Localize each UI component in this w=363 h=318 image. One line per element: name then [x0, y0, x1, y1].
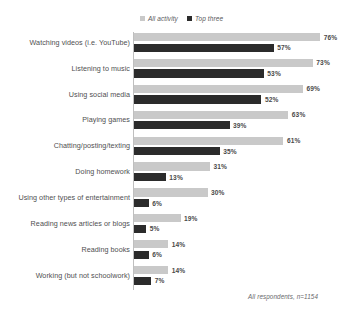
bar-fill — [134, 199, 149, 207]
bar-row: Listening to music73%53% — [0, 56, 363, 82]
category-label: Using social media — [2, 82, 130, 108]
bar-row: Reading books14%6% — [0, 237, 363, 263]
bar-row: Doing homework31%13% — [0, 159, 363, 185]
bar-fill — [134, 33, 320, 41]
bar-top-three: 7% — [134, 277, 164, 285]
legend-label-all-activity: All activity — [148, 15, 178, 22]
bar-fill — [134, 188, 208, 196]
bar-all-activity: 30% — [134, 188, 225, 196]
bar-fill — [134, 111, 288, 119]
bar-value-label: 57% — [277, 44, 291, 51]
bar-value-label: 61% — [287, 137, 301, 144]
bar-value-label: 14% — [172, 241, 186, 248]
category-label: Reading books — [2, 237, 130, 263]
category-label: Doing homework — [2, 159, 130, 185]
bar-fill — [134, 69, 264, 77]
bar-row: Working (but not schoolwork)14%7% — [0, 263, 363, 289]
bar-group: 30%6% — [134, 185, 363, 211]
bar-top-three: 35% — [134, 147, 237, 155]
bar-value-label: 76% — [324, 34, 338, 41]
bar-row: Reading news articles or blogs19%5% — [0, 211, 363, 237]
bar-value-label: 6% — [152, 200, 162, 207]
bar-group: 14%6% — [134, 237, 363, 263]
bar-all-activity: 31% — [134, 162, 227, 170]
square-light-icon — [140, 16, 145, 21]
chart-legend: All activity Top three — [0, 13, 363, 23]
bar-value-label: 73% — [316, 59, 330, 66]
bar-all-activity: 19% — [134, 214, 198, 222]
category-label: Working (but not schoolwork) — [2, 263, 130, 289]
category-label: Chatting/posting/texting — [2, 134, 130, 160]
bar-value-label: 39% — [233, 122, 247, 129]
bar-value-label: 35% — [223, 148, 237, 155]
bar-fill — [134, 44, 274, 52]
bar-fill — [134, 173, 166, 181]
bar-rows: Watching videos (i.e. YouTube)76%57%List… — [0, 30, 363, 289]
bar-value-label: 53% — [267, 70, 281, 77]
bar-top-three: 6% — [134, 251, 162, 259]
bar-group: 73%53% — [134, 56, 363, 82]
bar-value-label: 7% — [155, 277, 165, 284]
bar-value-label: 19% — [184, 215, 198, 222]
bar-group: 69%52% — [134, 82, 363, 108]
bar-fill — [134, 121, 230, 129]
bar-row: Playing games63%39% — [0, 108, 363, 134]
bar-top-three: 13% — [134, 173, 183, 181]
bar-top-three: 6% — [134, 199, 162, 207]
bar-top-three: 5% — [134, 225, 159, 233]
bar-value-label: 5% — [150, 225, 160, 232]
bar-group: 31%13% — [134, 159, 363, 185]
bar-all-activity: 73% — [134, 59, 330, 67]
bar-fill — [134, 240, 168, 248]
bar-all-activity: 14% — [134, 266, 185, 274]
bar-fill — [134, 162, 210, 170]
bar-all-activity: 69% — [134, 85, 320, 93]
bar-top-three: 57% — [134, 44, 291, 52]
plot-area: Watching videos (i.e. YouTube)76%57%List… — [0, 30, 363, 292]
bar-group: 63%39% — [134, 108, 363, 134]
bar-chart: All activity Top three Watching videos (… — [0, 0, 363, 318]
category-label: Using other types of entertainment — [2, 185, 130, 211]
bar-group: 19%5% — [134, 211, 363, 237]
category-label: Reading news articles or blogs — [2, 211, 130, 237]
bar-row: Chatting/posting/texting61%35% — [0, 134, 363, 160]
bar-top-three: 39% — [134, 121, 247, 129]
bar-row: Using other types of entertainment30%6% — [0, 185, 363, 211]
bar-fill — [134, 251, 149, 259]
bar-value-label: 31% — [213, 163, 227, 170]
bar-group: 61%35% — [134, 134, 363, 160]
bar-fill — [134, 95, 261, 103]
bar-all-activity: 76% — [134, 33, 337, 41]
bar-fill — [134, 85, 303, 93]
bar-all-activity: 61% — [134, 137, 300, 145]
bar-row: Using social media69%52% — [0, 82, 363, 108]
bar-value-label: 30% — [211, 189, 225, 196]
bar-top-three: 52% — [134, 95, 278, 103]
category-label: Watching videos (i.e. YouTube) — [2, 30, 130, 56]
bar-fill — [134, 277, 151, 285]
bar-group: 14%7% — [134, 263, 363, 289]
bar-value-label: 13% — [169, 174, 183, 181]
bar-fill — [134, 147, 220, 155]
category-label: Playing games — [2, 108, 130, 134]
bar-fill — [134, 59, 313, 67]
bar-value-label: 63% — [292, 111, 306, 118]
legend-item-top-three: Top three — [187, 15, 223, 22]
chart-footnote: All respondents, n=1154 — [248, 293, 318, 300]
bar-all-activity: 63% — [134, 111, 305, 119]
legend-label-top-three: Top three — [195, 15, 223, 22]
bar-top-three: 53% — [134, 69, 281, 77]
bar-row: Watching videos (i.e. YouTube)76%57% — [0, 30, 363, 56]
bar-all-activity: 14% — [134, 240, 185, 248]
bar-value-label: 69% — [307, 85, 321, 92]
bar-fill — [134, 225, 146, 233]
bar-fill — [134, 266, 168, 274]
legend-item-all-activity: All activity — [140, 15, 178, 22]
category-label: Listening to music — [2, 56, 130, 82]
bar-value-label: 6% — [152, 251, 162, 258]
bar-fill — [134, 137, 283, 145]
bar-value-label: 52% — [265, 96, 279, 103]
bar-fill — [134, 214, 181, 222]
square-dark-icon — [187, 16, 192, 21]
bar-group: 76%57% — [134, 30, 363, 56]
